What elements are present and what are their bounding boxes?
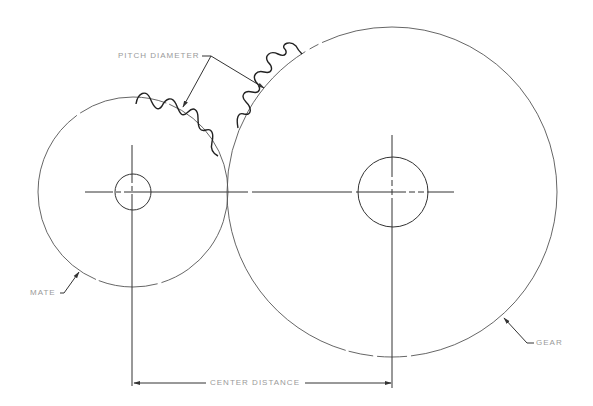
gear-leader	[504, 318, 534, 343]
center-distance-label: CENTER DISTANCE	[210, 378, 300, 388]
pitch-diameter-leader-gear	[211, 56, 264, 88]
gear-label: GEAR	[536, 338, 563, 348]
pitch-diameter-leaders	[183, 56, 264, 107]
mate-gear	[38, 93, 228, 386]
gear-teeth-profile	[237, 43, 302, 128]
mate-teeth-profile	[136, 93, 218, 156]
mate-leader	[60, 272, 79, 293]
gear-diagram	[0, 0, 593, 406]
mate-label: MATE	[30, 288, 56, 298]
pitch-diameter-leader-mate	[183, 56, 211, 107]
main-gear	[227, 27, 557, 388]
pitch-diameter-label: PITCH DIAMETER	[118, 51, 200, 61]
